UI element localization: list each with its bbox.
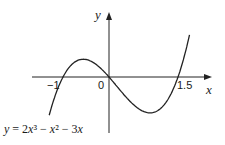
tick-label-1-5: 1.5	[177, 80, 192, 91]
cubic-graph-figure: y x −1 0 1.5 y = 2x³ − x² − 3x	[0, 0, 225, 145]
tick-label-0: 0	[98, 80, 104, 91]
tick-label-neg1: −1	[47, 80, 60, 91]
cubic-curve	[49, 35, 189, 115]
y-axis-label: y	[95, 8, 101, 21]
y-axis-arrow-icon	[106, 12, 112, 20]
equation-label: y = 2x³ − x² − 3x	[4, 123, 83, 135]
x-axis-arrow-icon	[204, 74, 212, 80]
x-axis-label: x	[206, 83, 212, 96]
